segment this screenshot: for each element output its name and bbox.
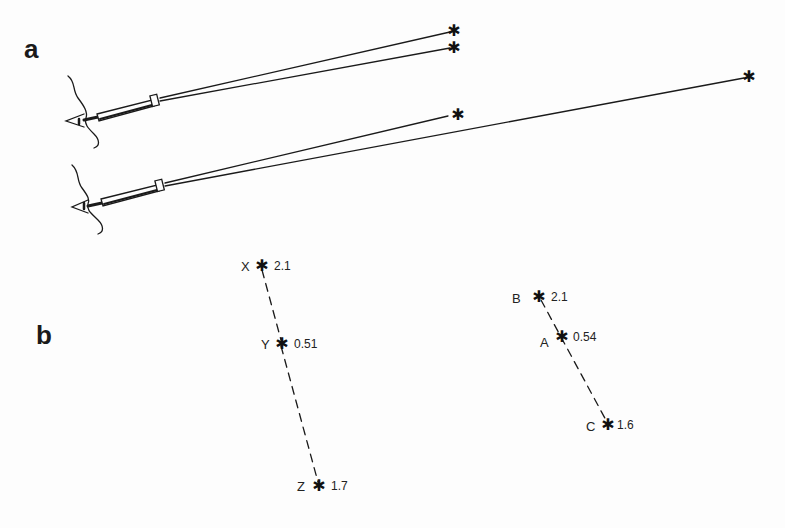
point-label-z: Z: [297, 480, 305, 493]
point-label-a: A: [540, 336, 549, 349]
star-icon-c: ✱: [601, 417, 614, 433]
dashed-line-bac: [541, 300, 607, 422]
point-label-y: Y: [261, 338, 270, 351]
point-label-b: B: [512, 292, 521, 305]
star-icon-z: ✱: [312, 478, 325, 494]
star-icon-far: ✱: [742, 69, 755, 85]
telescope-lower: [88, 78, 744, 206]
face-profile-upper: [68, 76, 99, 148]
point-value-b: 2.1: [551, 291, 568, 303]
observer-lower: [72, 78, 744, 234]
star-icon-y: ✱: [275, 336, 288, 352]
point-value-c: 1.6: [617, 419, 634, 431]
observer-upper: [66, 32, 450, 148]
point-value-x: 2.1: [274, 260, 291, 272]
star-icon-b: ✱: [532, 289, 545, 305]
star-icon-a: ✱: [555, 329, 568, 345]
star-icon-x: ✱: [255, 258, 268, 274]
star-icon-upper-1: ✱: [447, 23, 460, 39]
point-label-x: X: [241, 260, 250, 273]
star-icon-near: ✱: [451, 107, 464, 123]
point-value-z: 1.7: [331, 480, 348, 492]
diagram-canvas: [0, 0, 785, 528]
face-profile-lower: [72, 165, 103, 234]
point-label-c: C: [586, 420, 595, 433]
star-icon-upper-2: ✱: [447, 40, 460, 56]
telescope-upper: [84, 32, 450, 121]
dashed-line-xyz-2: [281, 346, 318, 482]
dashed-line-xyz-1: [262, 270, 281, 340]
eye-icon-upper: [66, 114, 84, 127]
point-value-a: 0.54: [573, 331, 596, 343]
point-value-y: 0.51: [294, 338, 317, 350]
eye-icon-lower: [72, 200, 88, 213]
